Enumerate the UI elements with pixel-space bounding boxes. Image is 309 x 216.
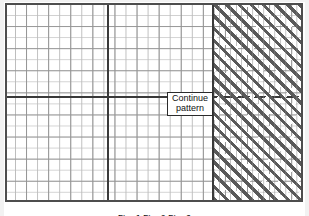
figure-caption: Fig. 1 Fig. 2 Fig. 3: [0, 206, 309, 216]
y-axis: [107, 5, 109, 200]
scan-edge-right: [305, 0, 309, 216]
figure-caption-text: Fig. 1 Fig. 2 Fig. 3: [118, 213, 191, 216]
hatched-region: [213, 5, 301, 200]
figure-container: Continue pattern Fig. 1 Fig. 2 Fig. 3: [0, 0, 309, 216]
continue-pattern-callout: Continue pattern: [167, 92, 213, 116]
coordinate-plane: Continue pattern: [7, 5, 301, 200]
callout-line-2: pattern: [170, 104, 210, 114]
graph-frame: Continue pattern: [5, 3, 303, 202]
scan-edge-left: [0, 0, 4, 216]
hatch-underlying-grid: [213, 5, 301, 200]
scan-edge-top: [0, 0, 309, 2]
